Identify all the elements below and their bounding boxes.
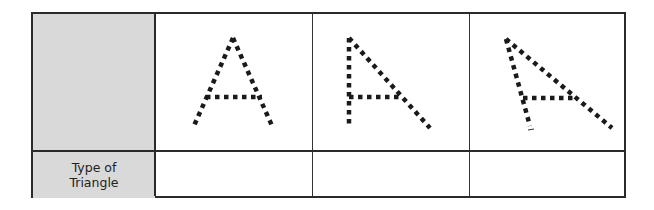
triangle-figures <box>0 0 654 210</box>
triangle-A-isosceles-shape <box>193 38 273 128</box>
triangle-A-right-shape <box>349 38 430 128</box>
stray-tick-mark <box>528 129 534 130</box>
triangle-A-obtuse-shape <box>506 39 612 128</box>
